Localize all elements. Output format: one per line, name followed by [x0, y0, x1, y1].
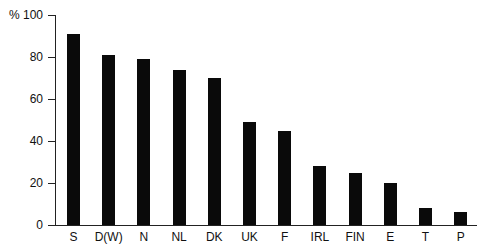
y-tick-label: % 100 — [9, 9, 43, 21]
category-label: F — [265, 231, 305, 243]
y-tick — [48, 225, 55, 226]
y-axis — [55, 15, 56, 226]
bar-dk — [208, 78, 221, 225]
bar-uk — [243, 122, 256, 225]
category-label: P — [441, 231, 481, 243]
bar-n — [137, 59, 150, 225]
category-label: UK — [230, 231, 270, 243]
y-tick — [48, 99, 55, 100]
y-tick-label: 80 — [30, 51, 43, 63]
category-label: D(W) — [89, 231, 129, 243]
category-label: FIN — [335, 231, 375, 243]
x-axis — [55, 225, 477, 226]
category-label: T — [406, 231, 446, 243]
y-tick — [48, 57, 55, 58]
bar-irl — [313, 166, 326, 225]
bar-dw — [102, 55, 115, 225]
bar-s — [67, 34, 80, 225]
category-label: DK — [194, 231, 234, 243]
y-tick — [48, 141, 55, 142]
y-tick-label: 20 — [30, 177, 43, 189]
category-label: NL — [159, 231, 199, 243]
bar-fin — [349, 173, 362, 226]
category-label: S — [54, 231, 94, 243]
bar-f — [278, 131, 291, 226]
bar-nl — [173, 70, 186, 225]
y-tick-label: 0 — [36, 219, 43, 231]
y-tick-label: 40 — [30, 135, 43, 147]
y-tick — [48, 183, 55, 184]
category-label: E — [370, 231, 410, 243]
bar-e — [384, 183, 397, 225]
category-label: IRL — [300, 231, 340, 243]
bar-p — [454, 212, 467, 225]
y-tick-label: 60 — [30, 93, 43, 105]
y-tick — [48, 15, 55, 16]
category-label: N — [124, 231, 164, 243]
bar-chart: 020406080% 100 SD(W)NNLDKUKFIRLFINETP — [0, 0, 489, 249]
bar-t — [419, 208, 432, 225]
